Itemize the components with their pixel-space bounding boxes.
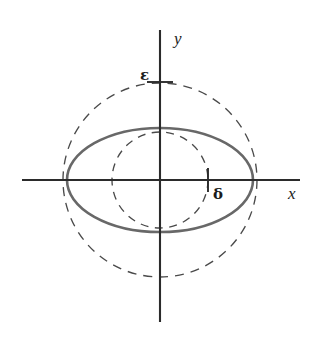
figure-container: y x ε δ	[0, 0, 328, 341]
x-axis-label: x	[287, 184, 296, 203]
epsilon-delta-diagram: y x ε δ	[0, 0, 328, 341]
y-axis-label: y	[172, 29, 182, 48]
delta-label: δ	[213, 185, 223, 203]
epsilon-label: ε	[140, 66, 149, 84]
